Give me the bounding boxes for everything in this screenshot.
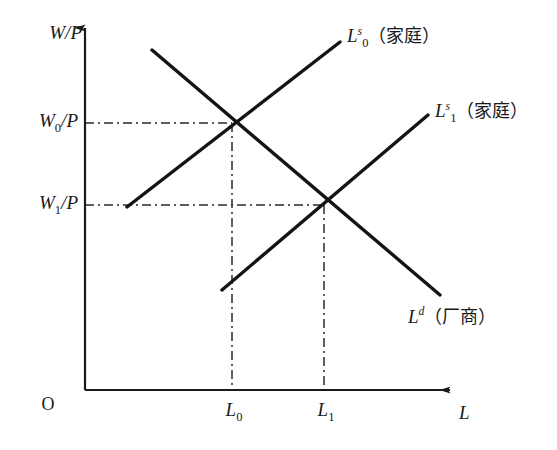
- y-tick-w0-main: W: [39, 110, 55, 131]
- labor-market-diagram: W/P L O W0/P W1/P L0 L1 Ls0（家庭） Ls1（家庭） …: [0, 0, 557, 450]
- y-tick-label-w1: W1/P: [39, 193, 78, 216]
- origin-label: O: [42, 395, 55, 413]
- y-tick-w0-rest: /P: [61, 110, 78, 131]
- x-tick-l1-main: L: [318, 399, 329, 420]
- x-tick-l1-subscript: 1: [328, 410, 334, 424]
- x-tick-label-l0: L0: [226, 400, 243, 423]
- y-tick-label-w0: W0/P: [39, 111, 78, 134]
- x-tick-l0-subscript: 0: [236, 410, 242, 424]
- curve-label-labor-supply-0: Ls0（家庭）: [347, 26, 440, 50]
- curve-ls0-note: （家庭）: [368, 26, 440, 46]
- y-tick-w1-main: W: [39, 192, 55, 213]
- guide-lines: [85, 123, 324, 390]
- y-axis-label: W/P: [49, 23, 82, 42]
- y-tick-w1-rest: /P: [61, 192, 78, 213]
- axes: [85, 28, 450, 390]
- curve-labor-demand: [152, 50, 440, 295]
- x-axis-label: L: [459, 403, 470, 422]
- curve-label-labor-demand: Ld（厂商）: [408, 306, 496, 325]
- x-tick-label-l1: L1: [318, 400, 335, 423]
- curve-labor-supply-1: [222, 115, 428, 290]
- diagram-canvas: [0, 0, 557, 450]
- curve-ld-note: （厂商）: [424, 307, 496, 327]
- x-tick-l0-main: L: [226, 399, 237, 420]
- curve-label-labor-supply-1: Ls1（家庭）: [435, 101, 528, 125]
- curves: [127, 42, 440, 295]
- curve-ls0-main: L: [347, 25, 358, 46]
- curve-ls1-main: L: [435, 100, 446, 121]
- curve-ld-main: L: [408, 306, 419, 327]
- curve-ls1-note: （家庭）: [456, 101, 528, 121]
